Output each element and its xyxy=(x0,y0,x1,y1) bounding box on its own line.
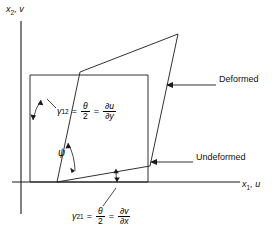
psi-arrowhead-lower xyxy=(70,167,75,173)
gamma-21-subscript: 21 xyxy=(77,213,84,220)
gamma-12-subscript: 12 xyxy=(62,108,69,115)
gamma-12-partial-y: ∂y xyxy=(103,111,115,121)
gamma-21-two: 2 xyxy=(96,216,105,226)
undeformed-label: Undeformed xyxy=(196,153,246,162)
gamma-12-equation: γ12 = θ 2 = ∂u ∂y xyxy=(57,102,117,121)
y-axis-displacement: v xyxy=(19,4,24,14)
gamma-21-theta: θ xyxy=(96,207,105,216)
gamma-12-equals-2: = xyxy=(94,106,99,116)
x-axis-label: x1, u xyxy=(242,180,260,191)
gamma-21-partial-v-over-x: ∂v ∂x xyxy=(118,207,130,226)
gamma21-leader xyxy=(103,188,116,206)
gamma-21-equals-2: = xyxy=(109,211,114,221)
gamma21-arrowhead-bottom xyxy=(114,178,120,182)
gamma-21-theta-over-two: θ 2 xyxy=(96,207,105,226)
undeformed-element xyxy=(30,75,148,182)
y-axis-label: x2, v xyxy=(6,5,24,16)
gamma12-leader xyxy=(47,99,56,108)
gamma-12-equals-1: = xyxy=(72,106,77,116)
psi-arrowhead-upper xyxy=(65,143,71,149)
gamma-12-partial-u: ∂u xyxy=(103,102,116,111)
gamma-12-partial-u-over-y: ∂u ∂y xyxy=(103,102,116,121)
deformed-label: Deformed xyxy=(219,75,259,84)
gamma12-arrowhead-lower xyxy=(30,115,36,120)
shear-strain-diagram xyxy=(0,0,278,233)
gamma-21-partial-x: ∂x xyxy=(118,216,130,226)
x-axis-displacement: u xyxy=(255,179,260,189)
gamma-21-partial-v: ∂v xyxy=(118,207,130,216)
psi-angle-label: ψ xyxy=(58,148,65,158)
gamma-12-theta-over-two: θ 2 xyxy=(81,102,90,121)
gamma-12-two: 2 xyxy=(81,111,90,121)
gamma12-arrowhead-upper xyxy=(38,100,44,105)
gamma-21-equals-1: = xyxy=(87,211,92,221)
gamma-12-theta: θ xyxy=(81,102,90,111)
gamma-21-equation: γ21 = θ 2 = ∂v ∂x xyxy=(72,207,131,226)
